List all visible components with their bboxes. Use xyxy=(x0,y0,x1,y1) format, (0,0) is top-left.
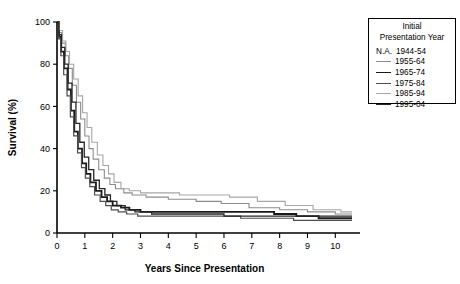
legend-entries: N.A.1944-541955-641965-741975-841985-941… xyxy=(369,46,455,110)
legend-title-line2: Presentation Year xyxy=(369,33,455,44)
chart-figure: { "legend": { "title_line1": "Initial", … xyxy=(0,0,460,284)
legend-label: 1975-84 xyxy=(395,79,425,88)
legend-item-1995-04: 1995-04 xyxy=(369,99,455,110)
y-tick-label: 80 xyxy=(40,59,50,69)
y-tick-label: 0 xyxy=(45,228,50,238)
x-tick-label: 8 xyxy=(277,241,282,251)
legend-item-1975-84: 1975-84 xyxy=(369,78,455,89)
legend-label: 1944-54 xyxy=(396,47,426,56)
legend-na-prefix: N.A. xyxy=(376,47,392,56)
x-tick-label: 1 xyxy=(82,241,87,251)
y-axis-title: Survival (%) xyxy=(7,99,18,156)
legend-title: Initial Presentation Year xyxy=(369,19,455,43)
legend: Initial Presentation Year N.A.1944-54195… xyxy=(368,18,456,104)
y-tick-label: 40 xyxy=(40,144,50,154)
x-tick-label: 10 xyxy=(330,241,340,251)
axes-layer xyxy=(53,22,360,238)
x-axis-title: Years Since Presentation xyxy=(145,263,265,274)
x-tick-label: 2 xyxy=(110,241,115,251)
legend-label: 1965-74 xyxy=(395,68,425,77)
legend-label: 1995-04 xyxy=(395,100,425,109)
legend-item-1985-94: 1985-94 xyxy=(369,88,455,99)
x-tick-label: 3 xyxy=(138,241,143,251)
y-tick-label: 60 xyxy=(40,102,50,112)
series-layer xyxy=(57,22,352,220)
series-line-1985-94 xyxy=(57,22,352,212)
legend-title-line1: Initial xyxy=(369,22,455,33)
series-line-1995-04 xyxy=(57,22,352,216)
legend-item-1944-54: N.A.1944-54 xyxy=(369,46,455,57)
legend-swatch-1955-64 xyxy=(376,61,391,62)
legend-swatch-1965-74 xyxy=(376,72,391,73)
legend-item-1955-64: 1955-64 xyxy=(369,57,455,68)
legend-label: 1985-94 xyxy=(395,89,425,98)
x-tick-label: 0 xyxy=(54,241,59,251)
legend-item-1965-74: 1965-74 xyxy=(369,67,455,78)
legend-swatch-1985-94 xyxy=(376,93,391,94)
legend-swatch-1975-84 xyxy=(376,83,391,84)
legend-label: 1955-64 xyxy=(395,57,425,66)
x-tick-label: 6 xyxy=(221,241,226,251)
x-tick-label: 7 xyxy=(249,241,254,251)
legend-swatch-1995-04 xyxy=(376,104,391,105)
series-line-1955-64 xyxy=(57,22,352,214)
y-tick-label: 100 xyxy=(35,17,50,27)
x-tick-label: 9 xyxy=(305,241,310,251)
x-tick-label: 5 xyxy=(194,241,199,251)
x-tick-label: 4 xyxy=(166,241,171,251)
y-tick-label: 20 xyxy=(40,186,50,196)
